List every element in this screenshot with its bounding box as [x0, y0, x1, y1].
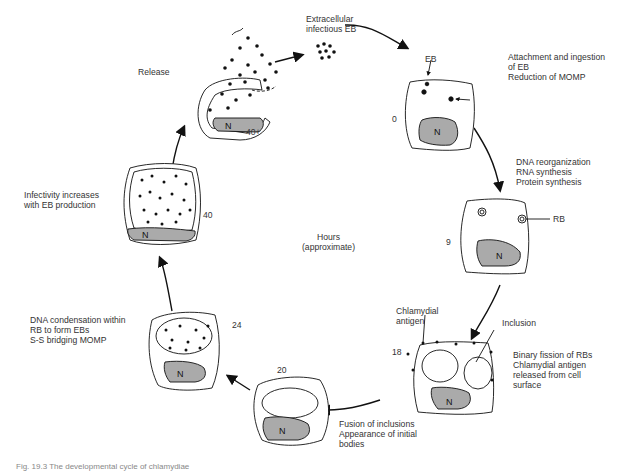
label-stage-0: Attachment and ingestion of EB Reduction…: [508, 52, 605, 82]
center-label-hours: Hours (approximate): [302, 232, 355, 252]
eb-particles-extracellular: [316, 42, 336, 60]
time-18: 18: [392, 347, 402, 357]
svg-text:N: N: [177, 369, 184, 379]
nucleus-label: N: [225, 121, 232, 131]
cell-40: [124, 164, 201, 245]
time-20: 20: [277, 365, 287, 375]
time-24: 24: [232, 320, 242, 330]
svg-text:N: N: [446, 397, 453, 407]
callout-inclusion: Inclusion: [502, 318, 536, 328]
svg-text:N: N: [142, 230, 149, 240]
callout-chlamydial-antigen: Chlamydial antigen: [396, 306, 439, 326]
eb-particles-release: [208, 36, 278, 112]
cell-20: [254, 377, 329, 445]
cell-24: [149, 312, 219, 390]
svg-text:N: N: [496, 251, 503, 261]
time-40plus: 40+: [246, 127, 261, 137]
svg-text:N: N: [279, 426, 286, 436]
label-release: Release: [138, 67, 170, 77]
time-0: 0: [392, 114, 397, 124]
cell-9: [461, 199, 550, 274]
figure-caption: Fig. 19.3 The developmental cycle of chl…: [16, 462, 189, 471]
time-9: 9: [446, 237, 451, 247]
callout-rb: RB: [553, 214, 565, 224]
label-stage-18: Binary fission of RBs Chlamydial antigen…: [513, 350, 592, 390]
cell-18: [414, 315, 494, 414]
callout-eb: EB: [425, 54, 436, 64]
svg-text:N: N: [434, 127, 441, 137]
label-stage-24: DNA condensation within RB to form EBs S…: [30, 315, 126, 345]
label-stage-40: Infectivity increases with EB production: [24, 190, 99, 210]
label-extracellular: Extracellular infectious EB: [306, 14, 356, 34]
label-stage-9: DNA reorganization RNA synthesis Protein…: [516, 157, 591, 187]
cell-release: [198, 28, 276, 140]
label-stage-20: Fusion of inclusions Appearance of initi…: [339, 419, 417, 449]
time-40: 40: [203, 210, 213, 220]
